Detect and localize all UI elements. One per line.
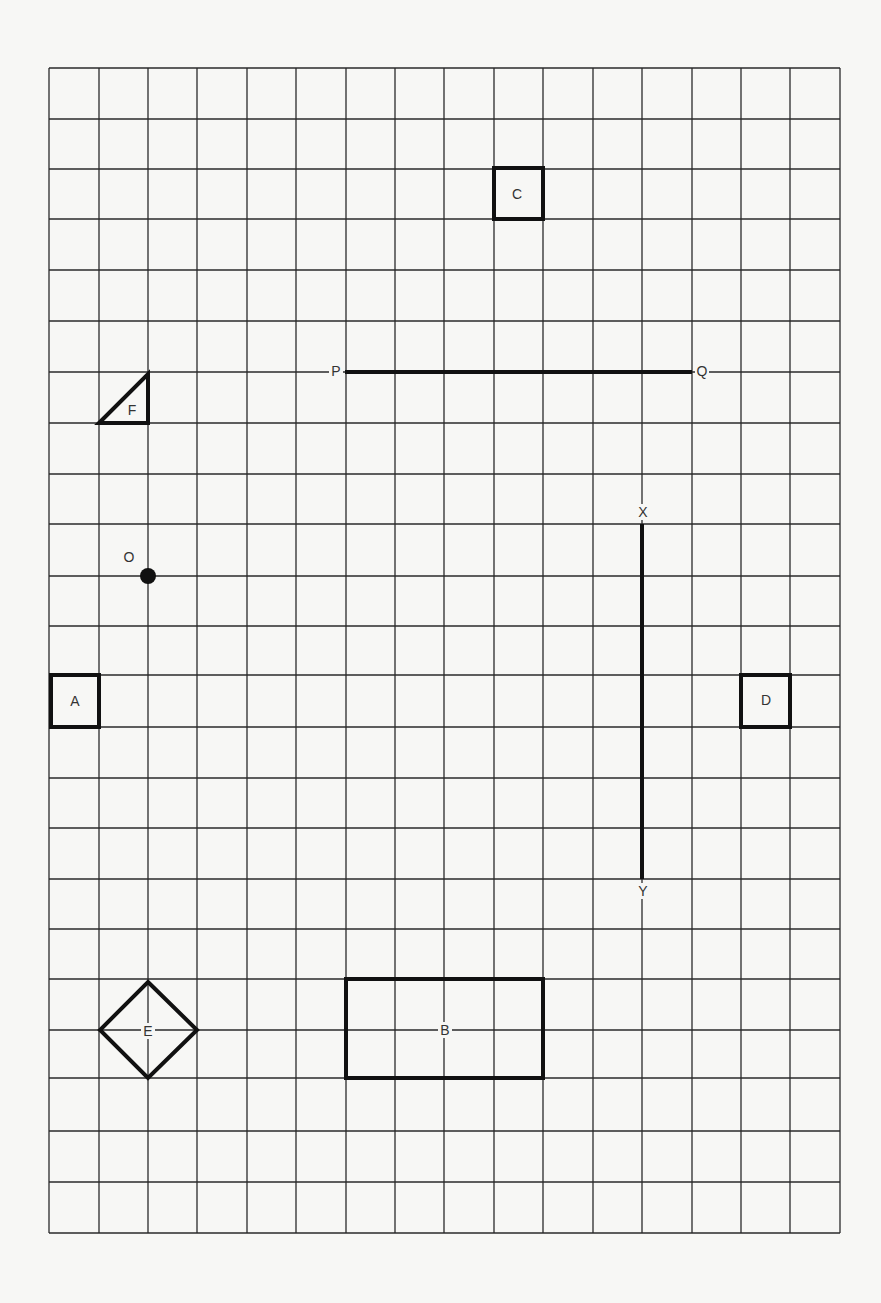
shape-label-f: F bbox=[128, 402, 137, 418]
segment-pq: PQ bbox=[329, 363, 709, 379]
shape-label-d: D bbox=[761, 692, 771, 708]
segments-layer: PQXY bbox=[329, 363, 709, 899]
endpoint-label-x: X bbox=[638, 504, 648, 520]
endpoint-label-y: Y bbox=[638, 883, 648, 899]
endpoint-label-q: Q bbox=[697, 363, 708, 379]
shape-d: D bbox=[741, 675, 790, 727]
shape-label-a: A bbox=[70, 693, 80, 709]
shape-label-e: E bbox=[143, 1023, 152, 1039]
shape-label-b: B bbox=[440, 1022, 449, 1038]
shape-f: F bbox=[99, 374, 148, 423]
points-layer: O bbox=[122, 549, 156, 584]
shape-c: C bbox=[494, 168, 543, 219]
shape-label-c: C bbox=[512, 186, 522, 202]
shape-a: A bbox=[51, 675, 99, 727]
point-o: O bbox=[122, 549, 156, 584]
shapes-layer: ABCDEF bbox=[51, 168, 790, 1078]
endpoint-label-p: P bbox=[331, 363, 340, 379]
point-dot-icon bbox=[140, 568, 156, 584]
point-label-o: O bbox=[124, 549, 135, 565]
grid-diagram: ABCDEF PQXY O bbox=[0, 0, 881, 1303]
right-triangle-outline bbox=[99, 374, 148, 423]
segment-xy: XY bbox=[636, 504, 650, 899]
